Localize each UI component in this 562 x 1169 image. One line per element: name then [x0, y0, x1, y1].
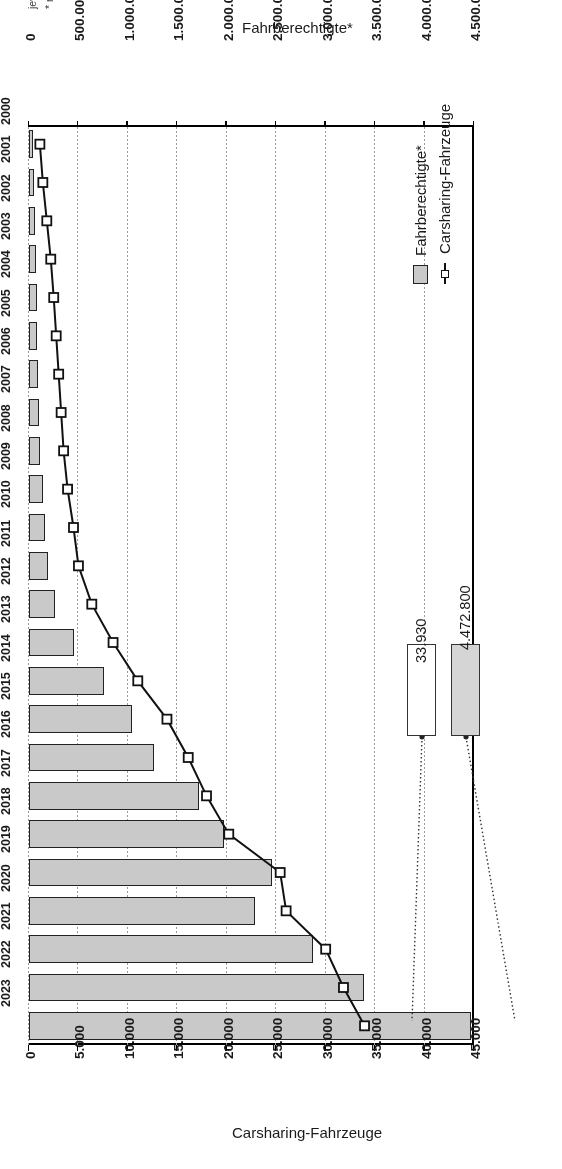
footnote-line-1: jeweils zum 01.01. des Jahres [26, 0, 38, 9]
callout-fahrberechtigte-value: 4.472.800 [457, 585, 473, 650]
chart-figure: Carsharing-Fahrzeuge Fahrberechtigte* 45… [0, 0, 562, 1169]
rotated-figure-wrapper: Carsharing-Fahrzeuge Fahrberechtigte* 45… [0, 0, 562, 1169]
callout-fahrzeuge-value: 33.930 [413, 619, 429, 663]
callout-leader-lines [0, 0, 562, 1169]
callout-fahrberechtigte-2023: 4.472.800 [451, 644, 480, 736]
callout-fahrzeuge-2023: 33.930 [407, 644, 436, 736]
footnote-line-2: * nicht überschneidungsfrei - Fahrberech… [43, 0, 55, 9]
footnotes: jeweils zum 01.01. des Jahres * nicht üb… [26, 0, 60, 9]
